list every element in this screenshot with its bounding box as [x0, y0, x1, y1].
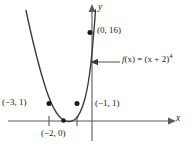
- y-axis-label: y: [98, 3, 102, 13]
- function-body: (x + 2): [145, 54, 170, 64]
- label-y-intercept: (0, 16): [97, 26, 121, 35]
- x-axis-arrowhead: [168, 118, 176, 125]
- quartic-curve: [26, 10, 96, 122]
- label-point-neg3-1: (−3, 1): [2, 98, 27, 107]
- y-axis-arrowhead: [89, 4, 96, 12]
- graph-canvas: [0, 0, 193, 147]
- point-marker-neg1-1: [75, 101, 80, 106]
- function-equals-sign: =: [135, 54, 145, 64]
- function-equation-label: f(x) = (x + 2)4: [122, 55, 172, 64]
- function-pointer-line: [91, 59, 121, 65]
- function-exponent: 4: [169, 52, 172, 59]
- point-marker-0-16: [88, 30, 93, 35]
- x-axis-label: x: [176, 114, 180, 124]
- function-argument: (x): [125, 54, 136, 64]
- math-figure-graph: (0, 16) (−3, 1) (−1, 1) (−2, 0) x y f(x)…: [0, 0, 193, 147]
- label-vertex-neg2-0: (−2, 0): [41, 129, 66, 138]
- label-point-neg1-1: (−1, 1): [95, 99, 120, 108]
- point-marker-neg3-1: [47, 101, 52, 106]
- point-marker-neg2-0-vertex: [61, 118, 65, 122]
